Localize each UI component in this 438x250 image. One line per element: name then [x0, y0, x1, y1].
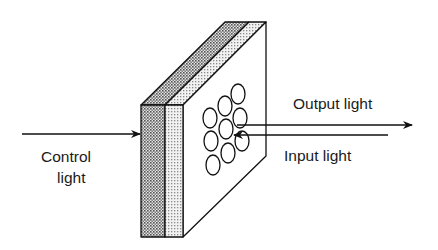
control-light-label-line1: Control — [41, 149, 91, 165]
pixel-element — [204, 131, 218, 151]
control-light-label-line2: light — [57, 170, 85, 186]
pixel-element — [206, 155, 220, 175]
pixel-element — [231, 84, 245, 104]
pixel-element — [221, 143, 235, 163]
input-light-label: Input light — [284, 148, 351, 164]
pixel-element — [218, 96, 232, 116]
pixel-element — [203, 108, 217, 128]
slab — [141, 22, 266, 237]
pixel-element — [219, 119, 233, 139]
optical-device-diagram — [0, 0, 438, 250]
dark-layer-front — [141, 105, 165, 237]
light-layer-front — [165, 105, 183, 237]
pixel-element — [235, 131, 249, 151]
output-light-label: Output light — [293, 96, 372, 112]
